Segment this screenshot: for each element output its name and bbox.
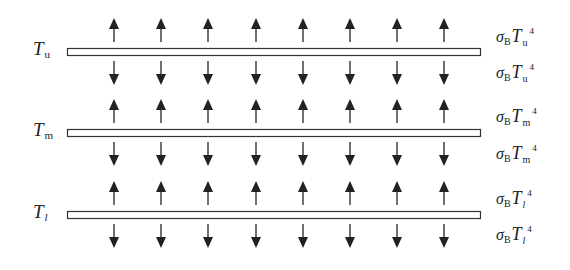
layer-bar-lower	[68, 212, 481, 219]
downward-arrow-middle-7	[439, 142, 449, 166]
upward-arrow-lower-5	[345, 181, 355, 205]
flux-upward-upper: σBTu4	[496, 26, 534, 48]
downward-arrow-upper-4	[298, 61, 308, 85]
upward-arrow-middle-3	[251, 99, 261, 123]
upward-arrow-middle-5	[345, 99, 355, 123]
flux-upward-lower: σBTl4	[496, 188, 532, 210]
diagram-canvas	[0, 0, 570, 270]
upward-arrow-middle-4	[298, 99, 308, 123]
upward-arrow-upper-6	[392, 18, 402, 42]
flux-downward-middle: σBTm4	[496, 143, 537, 165]
downward-arrow-lower-1	[156, 224, 166, 248]
downward-arrow-upper-7	[439, 61, 449, 85]
downward-arrow-lower-4	[298, 224, 308, 248]
flux-downward-upper: σBTu4	[496, 62, 534, 84]
downward-arrow-lower-6	[392, 224, 402, 248]
upward-arrow-middle-6	[392, 99, 402, 123]
downward-arrow-upper-3	[251, 61, 261, 85]
upward-arrow-upper-3	[251, 18, 261, 42]
upward-arrow-middle-1	[156, 99, 166, 123]
upward-arrow-upper-4	[298, 18, 308, 42]
layer-label-upper: Tu	[33, 38, 50, 60]
downward-arrow-lower-5	[345, 224, 355, 248]
upward-arrow-upper-1	[156, 18, 166, 42]
downward-arrow-lower-0	[109, 224, 119, 248]
downward-arrow-upper-0	[109, 61, 119, 85]
downward-arrow-middle-4	[298, 142, 308, 166]
downward-arrow-upper-6	[392, 61, 402, 85]
flux-downward-lower: σBTl4	[496, 224, 532, 246]
downward-arrow-upper-5	[345, 61, 355, 85]
downward-arrow-middle-2	[203, 142, 213, 166]
upward-arrow-lower-7	[439, 181, 449, 205]
upward-arrow-upper-2	[203, 18, 213, 42]
downward-arrow-upper-1	[156, 61, 166, 85]
upward-arrow-lower-3	[251, 181, 261, 205]
upward-arrow-lower-4	[298, 181, 308, 205]
downward-arrow-middle-5	[345, 142, 355, 166]
layer-label-lower: Tl	[33, 201, 48, 223]
upward-arrow-upper-5	[345, 18, 355, 42]
upward-arrow-lower-0	[109, 181, 119, 205]
downward-arrow-lower-7	[439, 224, 449, 248]
upward-arrow-upper-7	[439, 18, 449, 42]
upward-arrow-lower-2	[203, 181, 213, 205]
upward-arrow-lower-6	[392, 181, 402, 205]
layer-bar-middle	[68, 130, 481, 137]
flux-upward-middle: σBTm4	[496, 106, 537, 128]
layer-bar-upper	[68, 49, 481, 56]
downward-arrow-middle-0	[109, 142, 119, 166]
downward-arrow-upper-2	[203, 61, 213, 85]
upward-arrow-middle-7	[439, 99, 449, 123]
layer-label-middle: Tm	[33, 119, 53, 141]
radiative-layers-diagram: Tu σBTu4 σBTu4 Tm σBTm4 σBTm4 Tl σBTl4 σ…	[0, 0, 570, 270]
upward-arrow-upper-0	[109, 18, 119, 42]
upward-arrow-middle-0	[109, 99, 119, 123]
upward-arrow-lower-1	[156, 181, 166, 205]
downward-arrow-middle-3	[251, 142, 261, 166]
upward-arrow-middle-2	[203, 99, 213, 123]
downward-arrow-middle-1	[156, 142, 166, 166]
downward-arrow-middle-6	[392, 142, 402, 166]
downward-arrow-lower-2	[203, 224, 213, 248]
downward-arrow-lower-3	[251, 224, 261, 248]
